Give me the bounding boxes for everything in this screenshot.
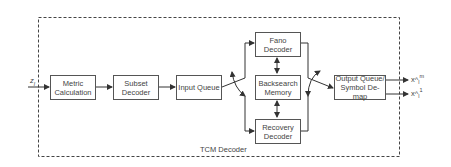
subset-decoder-block: Subset Decoder: [113, 75, 159, 100]
output-label-m: x^lm: [411, 73, 424, 85]
input-label: zl: [30, 76, 35, 87]
metric-calculation-block: Metric Calculation: [50, 75, 96, 100]
output-label-1: x^l1: [411, 87, 423, 99]
output-queue-block: Output Queue/ Symbol De-map: [334, 75, 386, 100]
recovery-decoder-block: Recovery Decoder: [255, 119, 301, 144]
backsearch-memory-block: Backsearch Memory: [255, 75, 301, 100]
input-queue-block: Input Queue: [176, 75, 222, 100]
fano-decoder-block: Fano Decoder: [255, 32, 301, 57]
tcm-decoder-label: TCM Decoder: [200, 145, 247, 154]
